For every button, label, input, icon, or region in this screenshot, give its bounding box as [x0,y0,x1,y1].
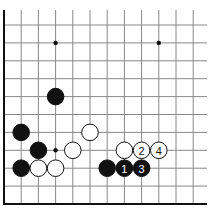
white-stone [116,142,133,159]
white-stone-4: 4 [151,142,168,159]
white-stone [82,124,99,141]
black-stone-disc [47,88,64,105]
white-stone-disc [65,142,82,159]
white-stone-disc [82,124,99,141]
white-stone-disc [30,160,47,177]
white-stone-disc [47,160,64,177]
move-number: 3 [139,163,145,175]
black-stone-1: 1 [116,160,133,177]
black-stone [30,142,47,159]
black-stone-3: 3 [133,160,150,177]
go-board: 2413 [0,0,209,211]
white-stone [30,160,47,177]
white-stone [47,160,64,177]
black-stone-disc [13,124,30,141]
black-stone [13,160,30,177]
move-number: 2 [139,145,145,157]
black-stone [47,88,64,105]
black-stone-disc [13,160,30,177]
white-stone-2: 2 [133,142,150,159]
black-stone-disc [99,160,116,177]
black-stone [99,160,116,177]
white-stone-disc [116,142,133,159]
black-stone [13,124,30,141]
star-point [53,148,57,152]
white-stone [65,142,82,159]
move-number: 1 [121,163,127,175]
black-stone-disc [30,142,47,159]
star-point [157,41,161,45]
move-number: 4 [156,145,162,157]
star-point [53,41,57,45]
